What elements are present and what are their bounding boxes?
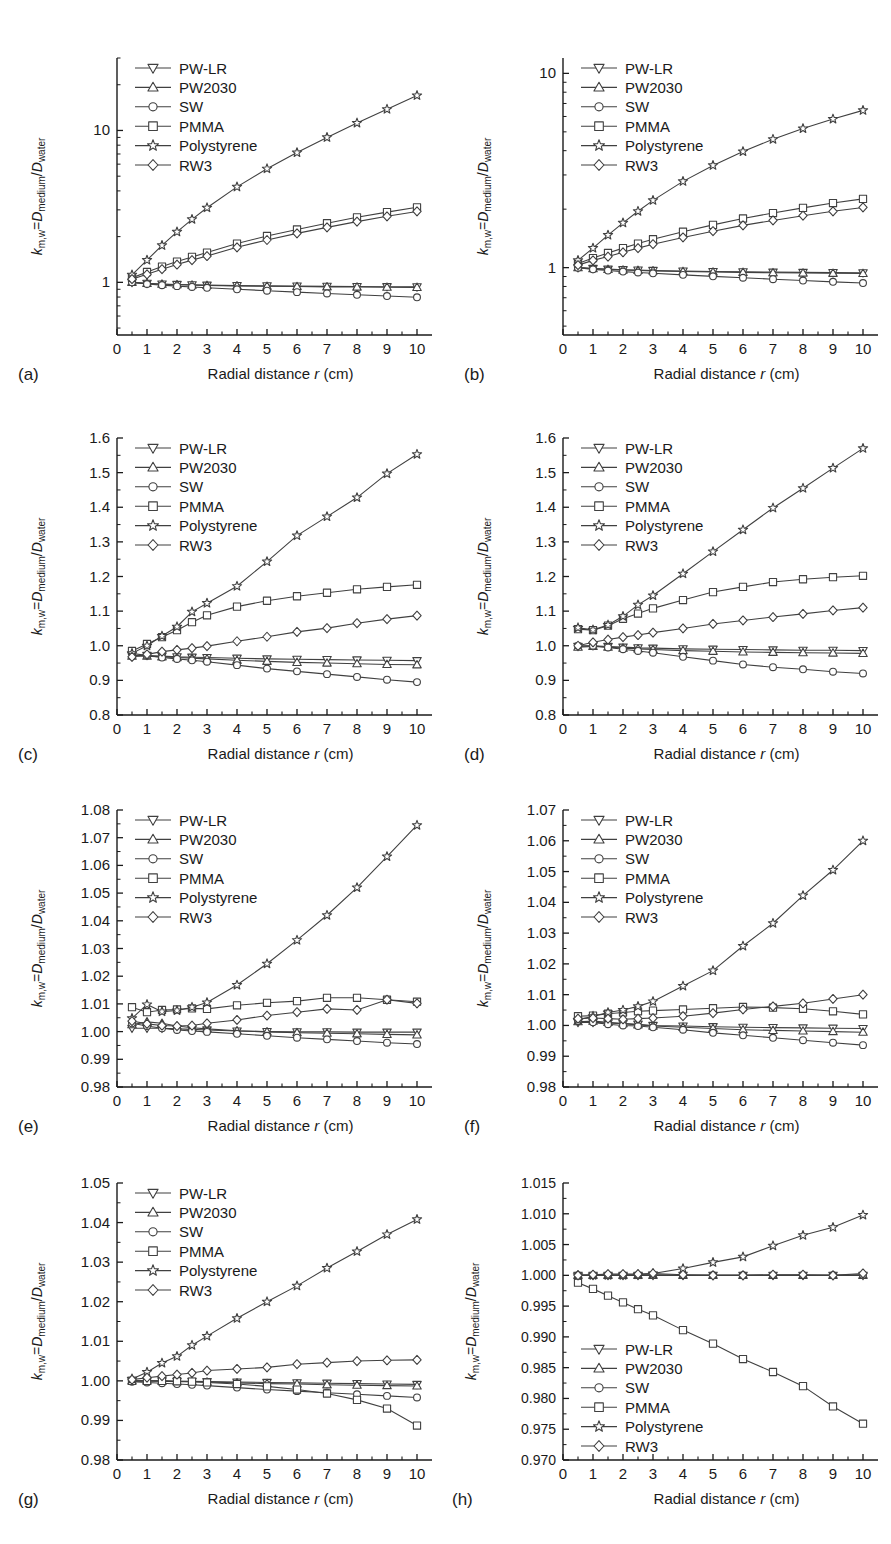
legend-item-sw[interactable]: SW — [581, 98, 650, 115]
panel-label-b: (b) — [464, 365, 485, 385]
svg-text:1: 1 — [548, 259, 556, 276]
legend-item-polystyrene[interactable]: Polystyrene — [581, 517, 703, 534]
svg-text:9: 9 — [383, 340, 391, 357]
svg-text:2: 2 — [173, 340, 181, 357]
series-pw2030 — [128, 1018, 421, 1038]
legend-item-polystyrene[interactable]: Polystyrene — [135, 137, 257, 154]
svg-text:2: 2 — [173, 1092, 181, 1109]
svg-text:5: 5 — [263, 1092, 271, 1109]
legend-item-pw-lr[interactable]: PW-LR — [135, 812, 227, 829]
legend-item-rw3[interactable]: RW3 — [135, 909, 212, 926]
legend-label: Polystyrene — [179, 517, 257, 534]
x-axis-ticks: 012345678910 — [559, 329, 872, 357]
legend-item-pmma[interactable]: PMMA — [135, 870, 224, 887]
svg-text:1.04: 1.04 — [81, 912, 110, 929]
x-axis-title: Radial distance r (cm) — [654, 745, 800, 762]
svg-text:6: 6 — [293, 1465, 301, 1482]
legend-item-rw3[interactable]: RW3 — [581, 909, 658, 926]
legend-item-pw-lr[interactable]: PW-LR — [135, 440, 227, 457]
svg-text:10: 10 — [409, 1465, 426, 1482]
y-axis-ticks: 0.80.91.01.11.21.31.41.51.6 — [535, 429, 569, 723]
legend-item-pmma[interactable]: PMMA — [581, 118, 670, 135]
legend-label: Polystyrene — [625, 1418, 703, 1435]
svg-text:1.5: 1.5 — [535, 464, 556, 481]
legend-item-pw2030[interactable]: PW2030 — [135, 79, 237, 96]
legend-item-rw3[interactable]: RW3 — [135, 1282, 212, 1299]
svg-text:1.07: 1.07 — [527, 801, 556, 818]
svg-text:1.01: 1.01 — [81, 995, 110, 1012]
svg-text:1.4: 1.4 — [535, 498, 556, 515]
legend-item-pw2030[interactable]: PW2030 — [581, 1360, 683, 1377]
legend-item-pmma[interactable]: PMMA — [135, 1243, 224, 1260]
series-rw3 — [574, 990, 867, 1024]
y-axis-ticks: 110 — [93, 58, 123, 328]
legend-item-polystyrene[interactable]: Polystyrene — [581, 889, 703, 906]
legend-item-pw-lr[interactable]: PW-LR — [135, 60, 227, 77]
legend-label: SW — [179, 98, 204, 115]
svg-text:7: 7 — [769, 1465, 777, 1482]
legend-item-pw2030[interactable]: PW2030 — [581, 831, 683, 848]
legend-item-polystyrene[interactable]: Polystyrene — [581, 1418, 703, 1435]
svg-text:0.99: 0.99 — [81, 1411, 110, 1428]
svg-text:1: 1 — [589, 1465, 597, 1482]
legend-item-pw2030[interactable]: PW2030 — [581, 79, 683, 96]
legend-item-pw2030[interactable]: PW2030 — [135, 831, 237, 848]
svg-text:10: 10 — [855, 1465, 872, 1482]
legend-item-rw3[interactable]: RW3 — [135, 157, 212, 174]
svg-text:1.00: 1.00 — [81, 1372, 110, 1389]
svg-text:1.2: 1.2 — [89, 568, 110, 585]
svg-text:1.1: 1.1 — [535, 602, 556, 619]
legend-item-sw[interactable]: SW — [581, 850, 650, 867]
legend-item-pmma[interactable]: PMMA — [135, 498, 224, 515]
legend-item-sw[interactable]: SW — [135, 1223, 204, 1240]
svg-text:4: 4 — [679, 340, 687, 357]
series-pmma — [574, 195, 866, 267]
legend-label: SW — [625, 478, 650, 495]
svg-text:5: 5 — [263, 340, 271, 357]
legend-item-pmma[interactable]: PMMA — [581, 498, 670, 515]
legend-item-sw[interactable]: SW — [581, 1379, 650, 1396]
legend-item-pmma[interactable]: PMMA — [581, 870, 670, 887]
legend-item-pw-lr[interactable]: PW-LR — [135, 1185, 227, 1202]
legend-item-pw2030[interactable]: PW2030 — [135, 459, 237, 476]
legend: PW-LRPW2030SWPMMAPolystyreneRW3 — [135, 440, 257, 554]
svg-text:8: 8 — [353, 1092, 361, 1109]
legend-item-pmma[interactable]: PMMA — [135, 118, 224, 135]
legend-item-sw[interactable]: SW — [135, 478, 204, 495]
series-sw — [129, 650, 421, 686]
legend-item-polystyrene[interactable]: Polystyrene — [135, 889, 257, 906]
legend-item-rw3[interactable]: RW3 — [581, 537, 658, 554]
series-rw3 — [574, 603, 867, 650]
legend-label: RW3 — [625, 1438, 658, 1455]
legend-item-pw-lr[interactable]: PW-LR — [581, 60, 673, 77]
svg-text:7: 7 — [323, 1092, 331, 1109]
legend-label: PW-LR — [179, 1185, 227, 1202]
legend-item-sw[interactable]: SW — [581, 478, 650, 495]
svg-text:8: 8 — [353, 1465, 361, 1482]
legend-item-rw3[interactable]: RW3 — [135, 537, 212, 554]
legend-item-pw-lr[interactable]: PW-LR — [581, 812, 673, 829]
svg-text:0: 0 — [559, 720, 567, 737]
legend-item-rw3[interactable]: RW3 — [581, 1438, 658, 1455]
legend-item-polystyrene[interactable]: Polystyrene — [135, 1262, 257, 1279]
series-polystyrene — [573, 106, 867, 265]
legend-item-pw2030[interactable]: PW2030 — [581, 459, 683, 476]
legend-item-pw-lr[interactable]: PW-LR — [581, 1341, 673, 1358]
legend-item-polystyrene[interactable]: Polystyrene — [135, 517, 257, 534]
svg-text:5: 5 — [709, 1465, 717, 1482]
legend-item-rw3[interactable]: RW3 — [581, 157, 658, 174]
legend-item-sw[interactable]: SW — [135, 850, 204, 867]
data-series-group — [127, 1215, 421, 1430]
svg-text:5: 5 — [263, 720, 271, 737]
svg-text:3: 3 — [203, 1092, 211, 1109]
legend-item-pw-lr[interactable]: PW-LR — [581, 440, 673, 457]
legend-label: PMMA — [179, 870, 224, 887]
legend-item-pw2030[interactable]: PW2030 — [135, 1204, 237, 1221]
svg-text:1: 1 — [102, 273, 110, 290]
legend: PW-LRPW2030SWPMMAPolystyreneRW3 — [581, 440, 703, 554]
legend-item-polystyrene[interactable]: Polystyrene — [581, 137, 703, 154]
series-pw-lr — [574, 1272, 867, 1279]
svg-text:10: 10 — [855, 1092, 872, 1109]
legend-item-pmma[interactable]: PMMA — [581, 1399, 670, 1416]
legend-item-sw[interactable]: SW — [135, 98, 204, 115]
